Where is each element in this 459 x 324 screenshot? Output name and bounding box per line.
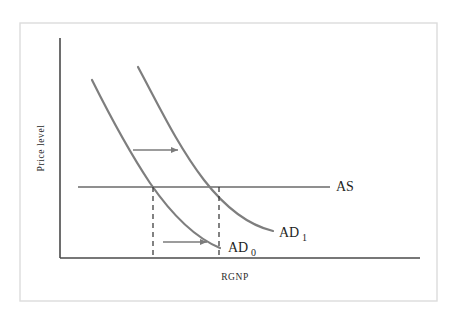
shift-arrow-upper bbox=[133, 147, 178, 153]
figure-root: AS AD 0 AD 1 Price level RGNP bbox=[0, 0, 459, 324]
y-axis-label: Price level bbox=[36, 125, 46, 172]
ad-as-diagram: AS AD 0 AD 1 Price level RGNP bbox=[0, 0, 459, 324]
page-border bbox=[20, 23, 437, 301]
shift-arrow-lower bbox=[163, 239, 207, 245]
ad1-label-subscript: 1 bbox=[302, 232, 307, 243]
ad0-label-subscript: 0 bbox=[251, 247, 256, 258]
ad1-label-group: AD 1 bbox=[279, 225, 307, 243]
as-label-group: AS bbox=[336, 179, 354, 194]
ad0-curve bbox=[92, 80, 220, 248]
arrow-head-upper-icon bbox=[171, 147, 178, 153]
as-label: AS bbox=[336, 179, 354, 194]
ad1-curve bbox=[138, 67, 273, 231]
ad0-label: AD bbox=[228, 240, 248, 255]
ad0-label-group: AD 0 bbox=[228, 240, 256, 258]
x-axis-label: RGNP bbox=[221, 272, 249, 282]
ad1-label: AD bbox=[279, 225, 299, 240]
